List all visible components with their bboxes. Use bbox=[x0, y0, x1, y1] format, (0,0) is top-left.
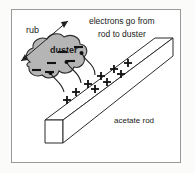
duster-shape bbox=[26, 34, 86, 78]
electron-arrow bbox=[51, 74, 64, 92]
electrons-caption-line2: rod to duster bbox=[98, 30, 146, 39]
electron-arrowhead bbox=[80, 51, 84, 55]
acetate-rod-label: acetate rod bbox=[114, 117, 154, 125]
duster-cloud-outline bbox=[26, 34, 86, 78]
rub-arrowhead-upper bbox=[61, 21, 68, 28]
rod-end-face bbox=[45, 120, 63, 143]
duster-label: duster bbox=[50, 46, 78, 55]
diagram-canvas: rub duster acetate rod electrons go from… bbox=[0, 0, 195, 173]
electron-arrowhead bbox=[49, 71, 53, 75]
electron-arrowhead bbox=[65, 60, 69, 64]
electrons-caption-line1: electrons go from bbox=[89, 17, 155, 26]
electron-arrow bbox=[82, 54, 95, 75]
rub-label: rub bbox=[26, 26, 39, 35]
